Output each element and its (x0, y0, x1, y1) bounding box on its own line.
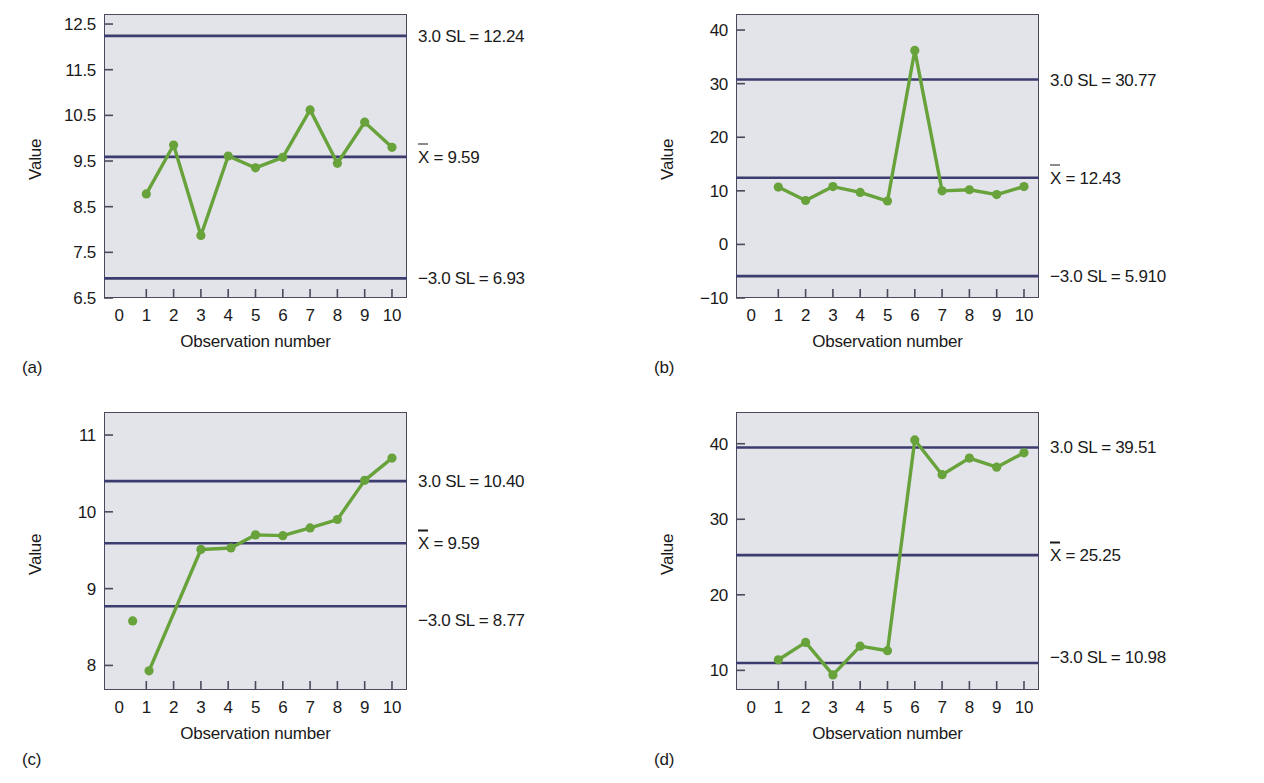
overbar (1050, 164, 1060, 166)
data-point-marker (828, 670, 837, 679)
plot-canvas-b (736, 14, 1039, 298)
limit-label-center: X = 9.59 (418, 148, 479, 165)
y-axis-tick-label: 30 (658, 75, 728, 92)
data-point-marker (965, 185, 974, 194)
plot-frame-b (736, 14, 1039, 298)
data-point-marker (883, 646, 892, 655)
y-axis-tick-label: 7.5 (26, 244, 96, 261)
data-point-marker (333, 515, 342, 524)
limit-label-center: X = 9.59 (418, 535, 479, 552)
xbar-symbol: X (1050, 547, 1061, 564)
data-point-marker (774, 655, 783, 664)
data-point-marker (992, 190, 1001, 199)
plot-frame-c (104, 412, 407, 690)
limit-label-upper: 3.0 SL = 30.77 (1050, 71, 1156, 88)
y-axis-tick-label: 10 (658, 662, 728, 679)
y-axis-tick-label: 10.5 (26, 107, 96, 124)
limit-label-center: X = 12.43 (1050, 169, 1121, 186)
x-axis-title: Observation number (736, 332, 1039, 352)
x-axis-tick-label: 2 (169, 699, 178, 716)
x-axis-tick-label: 5 (251, 699, 260, 716)
x-axis-tick-label: 9 (992, 699, 1001, 716)
x-axis-tick-label: 5 (883, 307, 892, 324)
x-axis-tick-label: 4 (856, 307, 865, 324)
x-axis-tick-label: 5 (251, 307, 260, 324)
data-point-marker (965, 453, 974, 462)
x-axis-tick-label: 8 (965, 699, 974, 716)
x-axis-tick-label: 0 (746, 699, 755, 716)
plot-frame-a (104, 14, 407, 298)
x-axis-tick-label: 2 (801, 307, 810, 324)
x-axis-tick-label: 10 (1015, 699, 1033, 716)
data-point-marker (828, 182, 837, 191)
xbar-symbol: X (1050, 169, 1061, 186)
plot-canvas-c (104, 412, 407, 690)
y-axis-title: Value (26, 139, 46, 180)
y-axis-tick-label: 12.5 (26, 16, 96, 33)
series-line (778, 440, 1024, 675)
x-axis-tick-label: 8 (333, 307, 342, 324)
control-chart-panel-d: 10203040012345678910ValueObservation num… (632, 391, 1264, 782)
data-point-marker (226, 543, 235, 552)
y-axis-title: Value (658, 139, 678, 180)
x-axis-tick-label: 7 (938, 699, 947, 716)
data-point-marker (387, 143, 396, 152)
x-axis-tick-label: 4 (856, 699, 865, 716)
x-axis-tick-label: 5 (883, 699, 892, 716)
x-axis-tick-label: 8 (965, 307, 974, 324)
plot-frame-d (736, 412, 1039, 690)
x-axis-tick-label: 3 (828, 699, 837, 716)
y-axis-tick-label: 11 (26, 427, 96, 444)
limit-label-lower: −3.0 SL = 10.98 (1050, 648, 1166, 665)
x-axis-tick-label: 10 (383, 307, 401, 324)
panel-letter-b: (b) (654, 358, 674, 378)
x-axis-tick-label: 7 (938, 307, 947, 324)
limit-label-text: = 12.43 (1061, 168, 1121, 187)
x-axis-tick-label: 0 (114, 699, 123, 716)
control-chart-panel-a: 6.57.58.59.510.511.512.5012345678910Valu… (0, 0, 632, 391)
x-axis-tick-label: 7 (306, 307, 315, 324)
data-point-marker (910, 46, 919, 55)
xbar-symbol: X (418, 148, 429, 165)
limit-label-lower: −3.0 SL = 6.93 (418, 270, 525, 287)
x-axis-tick-label: 1 (774, 699, 783, 716)
data-point-marker (251, 530, 260, 539)
x-axis-tick-label: 9 (992, 307, 1001, 324)
x-axis-tick-label: 1 (774, 307, 783, 324)
x-axis-tick-label: 2 (801, 699, 810, 716)
data-point-marker (360, 476, 369, 485)
limit-label-lower: −3.0 SL = 5.910 (1050, 268, 1166, 285)
y-axis-tick-label: 11.5 (26, 61, 96, 78)
x-axis-tick-label: 1 (142, 699, 151, 716)
x-axis-tick-label: 6 (278, 699, 287, 716)
y-axis-tick-label: 30 (658, 511, 728, 528)
y-axis-tick-label: 0 (658, 236, 728, 253)
overbar (418, 143, 428, 145)
data-point-marker (387, 453, 396, 462)
x-axis-tick-label: 8 (333, 699, 342, 716)
control-chart-panel-b: −10010203040012345678910ValueObservation… (632, 0, 1264, 391)
data-point-marker (992, 463, 1001, 472)
x-axis-tick-label: 3 (828, 307, 837, 324)
x-axis-tick-label: 1 (142, 307, 151, 324)
series-line (149, 458, 392, 671)
x-axis-title: Observation number (104, 724, 407, 744)
panel-letter-a: (a) (22, 358, 42, 378)
x-axis-tick-label: 9 (360, 699, 369, 716)
x-axis-tick-label: 4 (224, 307, 233, 324)
y-axis-tick-label: 10 (658, 182, 728, 199)
data-point-marker (360, 118, 369, 127)
x-axis-tick-label: 2 (169, 307, 178, 324)
plot-canvas-a (104, 14, 407, 298)
y-axis-tick-label: −10 (658, 290, 728, 307)
y-axis-tick-label: 8 (26, 657, 96, 674)
x-axis-tick-label: 6 (910, 307, 919, 324)
data-point-marker (169, 140, 178, 149)
y-axis-tick-label: 10 (26, 503, 96, 520)
limit-label-upper: 3.0 SL = 12.24 (418, 27, 524, 44)
data-point-marker (142, 189, 151, 198)
data-point-marker (224, 151, 233, 160)
data-point-marker (774, 182, 783, 191)
data-point-marker (883, 196, 892, 205)
data-point-marker (1019, 182, 1028, 191)
